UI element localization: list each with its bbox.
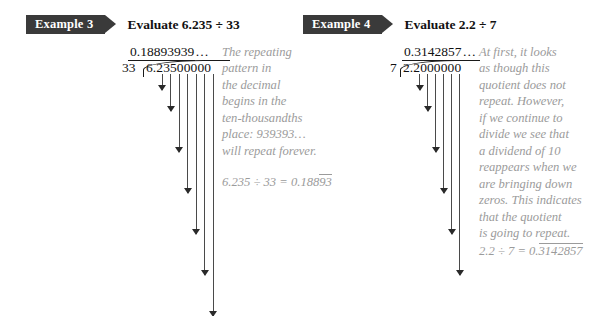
example-3-result-prefix: 6.235 ÷ 33 = 0.188 (222, 175, 319, 189)
commentary-line: will repeat forever. (222, 143, 332, 159)
commentary-line: if we continue to (479, 110, 583, 126)
commentary-line: a dividend of 10 (479, 143, 583, 159)
example-4-result: 2.2 ÷ 7 = 0.3142857 (479, 243, 583, 259)
commentary-line: place: 939393… (222, 126, 332, 142)
commentary-line: begins in the (222, 93, 332, 109)
commentary-line: that the quotient (479, 209, 583, 225)
quotient-4-ellipsis: … (462, 44, 476, 59)
example-4-banner: Example 4 (303, 15, 382, 34)
example-4-result-repeat: 3142857 (539, 243, 583, 258)
commentary-line: divide we see that (479, 126, 583, 142)
bringdown-arrow-4-5 (451, 74, 452, 234)
quotient-4-value: 0.3142857 (402, 44, 462, 61)
commentary-line: ten-thousandths (222, 110, 332, 126)
bringdown-arrow-4-6 (459, 74, 460, 275)
divisor-3: 33 (122, 60, 136, 76)
commentary-line: repeat. However, (479, 93, 583, 109)
example-4-result-prefix: 2.2 ÷ 7 = 0. (479, 244, 539, 258)
commentary-line: the decimal (222, 77, 332, 93)
quotient-3: 0.18893939… (128, 44, 209, 60)
commentary-line: as though this (479, 60, 583, 76)
commentary-line: are bringing down (479, 176, 583, 192)
bringdown-arrow-4-2 (427, 74, 428, 111)
bringdown-arrow-3-5 (196, 74, 197, 234)
bringdown-arrow-4-1 (419, 74, 420, 90)
quotient-3-ellipsis: … (195, 44, 209, 59)
worksheet-page: Example 3 Evaluate 6.235 ÷ 33 0.18893939… (0, 0, 615, 316)
bringdown-arrow-4-4 (443, 74, 444, 193)
quotient-4: 0.3142857… (402, 44, 476, 60)
commentary-line: reappears when we (479, 159, 583, 175)
dividend-4: 2.2000000 (403, 60, 461, 76)
bringdown-arrow-3-7 (213, 74, 214, 316)
example-3-title: Evaluate 6.235 ÷ 33 (127, 17, 239, 33)
commentary-line: is going to repeat. (479, 225, 583, 241)
bringdown-arrow-4-3 (435, 74, 436, 152)
example-4-title: Evaluate 2.2 ÷ 7 (404, 17, 496, 33)
example-3-result-repeat: 93 (319, 174, 332, 189)
divisor-4: 7 (390, 60, 397, 76)
commentary-line: zeros. This indicates (479, 192, 583, 208)
example-3-header: Example 3 Evaluate 6.235 ÷ 33 (26, 15, 240, 34)
bringdown-arrow-3-2 (170, 74, 171, 111)
bringdown-arrow-3-4 (187, 74, 188, 193)
example-3-result: 6.235 ÷ 33 = 0.18893 (222, 174, 332, 190)
example-4-header: Example 4 Evaluate 2.2 ÷ 7 (303, 15, 497, 34)
example-3-banner: Example 3 (26, 15, 105, 34)
bringdown-arrow-3-6 (204, 74, 205, 275)
commentary-line: At first, it looks (479, 44, 583, 60)
quotient-3-value: 0.18893939 (128, 44, 195, 61)
commentary-line: The repeating (222, 44, 332, 60)
example-4-commentary: At first, it looksas though thisquotient… (479, 44, 583, 260)
bringdown-arrow-3-3 (179, 74, 180, 152)
example-3-commentary: The repeatingpattern inthe decimalbegins… (222, 44, 332, 191)
commentary-line: pattern in (222, 60, 332, 76)
commentary-line: quotient does not (479, 77, 583, 93)
bringdown-arrow-3-1 (162, 74, 163, 90)
